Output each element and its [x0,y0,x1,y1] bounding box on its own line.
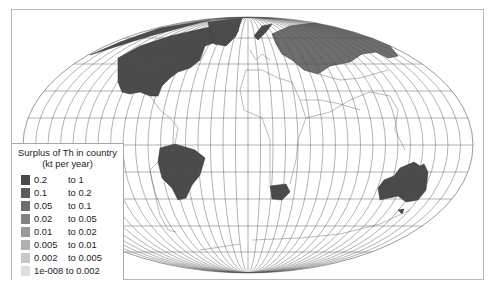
legend-item-to: to 0.2 [68,187,91,198]
legend-item: 0.2 to 1 [17,173,123,186]
legend-item: 0.01 to 0.02 [17,225,123,238]
legend-swatch [21,253,30,263]
legend-item: 0.02 to 0.05 [17,212,123,225]
legend-item-from: 0.1 [34,187,68,198]
legend-title-line2: (kt per year) [17,158,123,169]
legend-swatch [21,227,30,237]
legend-swatch [21,201,30,211]
legend-swatch [21,188,30,198]
legend-item-from: 0.002 [34,252,68,263]
legend: Surplus of Th in country (kt per year) 0… [12,143,124,280]
legend-item-to: to 0.005 [68,252,102,263]
legend-item-from: 0.05 [34,200,68,211]
legend-item-to: to 1 [68,174,84,185]
legend-swatch [21,266,30,276]
legend-title-line1: Surplus of Th in country [17,147,123,158]
legend-item: 0.002 to 0.005 [17,251,123,264]
legend-swatch [21,214,30,224]
legend-item-to: to 0.02 [68,226,97,237]
legend-item-from: 0.2 [34,174,68,185]
legend-item-from: 0.02 [34,213,68,224]
legend-item: 0.005 to 0.01 [17,238,123,251]
legend-item-to: to 0.1 [68,200,91,211]
legend-item-from: 0.01 [34,226,68,237]
legend-items: 0.2 to 1 0.1 to 0.2 0.05 to 0.1 0.02 to … [17,173,123,277]
legend-item-to: to 0.05 [68,213,97,224]
legend-item: 0.1 to 0.2 [17,186,123,199]
legend-item: 1e-008 to 0.002 [17,264,123,277]
legend-swatch [21,240,30,250]
legend-item: 0.05 to 0.1 [17,199,123,212]
legend-swatch [21,175,30,185]
legend-item-range: 1e-008 to 0.002 [34,265,100,276]
region-south-africa [270,184,290,200]
legend-item-to: to 0.01 [68,239,97,250]
legend-item-from: 0.005 [34,239,68,250]
region-norway [254,24,272,40]
